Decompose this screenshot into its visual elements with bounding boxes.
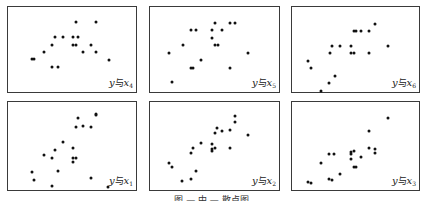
data-point bbox=[33, 58, 36, 61]
figure-caption: 图 — 中 — 散点图 bbox=[0, 194, 423, 201]
data-point bbox=[51, 185, 54, 188]
data-point bbox=[214, 132, 217, 135]
data-point bbox=[95, 21, 98, 24]
data-point bbox=[75, 126, 78, 129]
data-point bbox=[368, 52, 371, 55]
data-point bbox=[353, 150, 356, 153]
data-point bbox=[368, 30, 371, 33]
scatter-panel-x2: y与x2 bbox=[149, 101, 280, 191]
data-point bbox=[54, 36, 57, 39]
data-point bbox=[168, 52, 171, 55]
data-point bbox=[360, 30, 363, 33]
data-point bbox=[217, 44, 220, 47]
scatter-panel-x1: y与x1 bbox=[7, 101, 137, 191]
scatter-panel-x4: y与x4 bbox=[7, 6, 137, 93]
data-point bbox=[62, 141, 65, 144]
scatter-panel-x3: y与x3 bbox=[291, 101, 420, 191]
data-point bbox=[334, 75, 337, 78]
data-point bbox=[195, 29, 198, 32]
data-point bbox=[234, 121, 237, 124]
data-point bbox=[168, 162, 171, 165]
data-point bbox=[320, 162, 323, 165]
data-point bbox=[374, 148, 377, 151]
data-point bbox=[387, 45, 390, 48]
data-point bbox=[368, 147, 371, 150]
data-point bbox=[43, 154, 46, 157]
data-point bbox=[331, 179, 334, 182]
panel-label: y与x3 bbox=[392, 175, 416, 189]
data-point bbox=[328, 82, 331, 85]
data-point bbox=[72, 147, 75, 150]
data-point bbox=[374, 152, 377, 155]
data-point bbox=[247, 134, 250, 137]
data-point bbox=[75, 44, 78, 47]
data-point bbox=[339, 45, 342, 48]
data-point bbox=[387, 117, 390, 120]
data-point bbox=[54, 149, 57, 152]
data-point bbox=[33, 179, 36, 182]
data-point bbox=[43, 51, 46, 54]
data-point bbox=[62, 36, 65, 39]
data-point bbox=[171, 166, 174, 169]
data-point bbox=[57, 66, 60, 69]
data-point bbox=[374, 23, 377, 26]
data-point bbox=[75, 157, 78, 160]
data-point bbox=[195, 170, 198, 173]
data-point bbox=[192, 147, 195, 150]
data-point bbox=[229, 22, 232, 25]
data-point bbox=[350, 153, 353, 156]
data-point bbox=[229, 147, 232, 150]
data-point bbox=[95, 51, 98, 54]
data-point bbox=[190, 29, 193, 32]
data-point bbox=[350, 45, 353, 48]
data-point bbox=[234, 22, 237, 25]
data-point bbox=[229, 129, 232, 132]
data-point bbox=[328, 153, 331, 156]
data-point bbox=[82, 51, 85, 54]
data-point bbox=[200, 59, 203, 62]
data-point bbox=[82, 125, 85, 128]
data-point bbox=[353, 52, 356, 55]
data-point bbox=[51, 66, 54, 69]
data-point bbox=[310, 182, 313, 185]
data-point bbox=[57, 170, 60, 173]
data-point bbox=[310, 67, 313, 70]
data-point bbox=[77, 117, 80, 120]
data-point bbox=[51, 157, 54, 160]
data-point bbox=[192, 67, 195, 70]
data-point bbox=[211, 143, 214, 146]
data-point bbox=[190, 152, 193, 155]
data-point bbox=[211, 150, 214, 153]
data-point bbox=[214, 22, 217, 25]
data-point bbox=[211, 29, 214, 32]
data-point bbox=[221, 130, 224, 133]
data-point bbox=[307, 60, 310, 63]
panel-label: y与x2 bbox=[252, 175, 276, 189]
data-point bbox=[350, 158, 353, 161]
data-point bbox=[51, 44, 54, 47]
panel-label: y与x5 bbox=[252, 77, 276, 91]
data-point bbox=[200, 142, 203, 145]
data-point bbox=[355, 30, 358, 33]
data-point bbox=[331, 45, 334, 48]
data-point bbox=[90, 177, 93, 180]
data-point bbox=[77, 36, 80, 39]
data-point bbox=[216, 127, 219, 130]
panel-label: y与x1 bbox=[109, 175, 133, 189]
data-point bbox=[182, 44, 185, 47]
panel-label: y与x4 bbox=[109, 77, 133, 91]
data-point bbox=[368, 130, 371, 133]
data-point bbox=[355, 166, 358, 169]
data-point bbox=[108, 59, 111, 62]
data-point bbox=[75, 21, 78, 24]
data-point bbox=[221, 29, 224, 32]
panel-label: y与x6 bbox=[392, 77, 416, 91]
data-point bbox=[171, 81, 174, 84]
data-point bbox=[329, 52, 332, 55]
data-point bbox=[190, 178, 193, 181]
data-point bbox=[72, 161, 75, 164]
scatter-panel-x6: y与x6 bbox=[291, 6, 420, 93]
data-point bbox=[72, 36, 75, 39]
data-point bbox=[247, 52, 250, 55]
data-point bbox=[339, 173, 342, 176]
